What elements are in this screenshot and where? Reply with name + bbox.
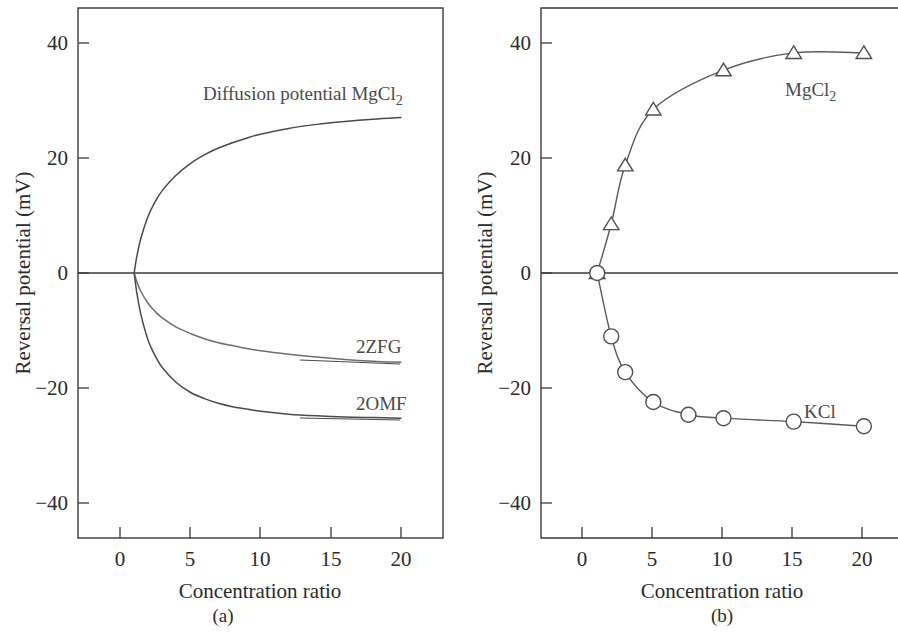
data-point-circle bbox=[681, 407, 696, 422]
x-tick-label-10-b: 10 bbox=[712, 547, 733, 571]
y-tick-label-m20-b: −20 bbox=[498, 376, 531, 400]
x-tick-label-20-b: 20 bbox=[852, 547, 873, 571]
y-tick-label-40-a: 40 bbox=[47, 31, 68, 55]
x-tick-label-20-a: 20 bbox=[391, 547, 412, 571]
x-tick-label-0-a: 0 bbox=[115, 547, 126, 571]
x-tick-label-15-b: 15 bbox=[782, 547, 803, 571]
data-point-circle bbox=[646, 395, 661, 410]
y-tick-label-m40-b: −40 bbox=[498, 491, 531, 515]
panel-b: 40 20 0 −20 −40 0 5 10 15 20 Concentrati… bbox=[440, 0, 898, 634]
x-tick-label-5-a: 5 bbox=[185, 547, 196, 571]
x-axis-title-b: Concentration ratio bbox=[641, 579, 804, 603]
y-tick-label-0-a: 0 bbox=[58, 261, 69, 285]
data-point-circle bbox=[786, 414, 801, 429]
label-mgcl2: MgCl2 bbox=[785, 79, 836, 104]
y-tick-label-20-a: 20 bbox=[47, 146, 68, 170]
panel-caption-a: (a) bbox=[212, 605, 233, 627]
x-axis-ticks-a bbox=[120, 527, 401, 538]
label-diffusion-text: Diffusion potential MgCl bbox=[203, 83, 396, 104]
data-point-circle bbox=[604, 329, 619, 344]
data-point-triangle bbox=[618, 158, 634, 171]
data-point-triangle bbox=[716, 63, 731, 76]
x-tick-label-10-a: 10 bbox=[250, 547, 271, 571]
label-diffusion-potential: Diffusion potential MgCl2 bbox=[203, 83, 403, 108]
x-axis-title-a: Concentration ratio bbox=[179, 579, 342, 603]
label-2omf: 2OMF bbox=[356, 393, 407, 414]
label-mgcl2-subscript: 2 bbox=[829, 89, 836, 104]
panel-caption-b: (b) bbox=[711, 605, 733, 627]
data-point-circle bbox=[618, 365, 633, 380]
y-axis-ticks-a bbox=[78, 43, 89, 503]
data-point-triangle bbox=[604, 217, 619, 230]
y-axis-ticks-b bbox=[541, 43, 552, 503]
x-tick-label-15-a: 15 bbox=[321, 547, 342, 571]
y-tick-label-0-b: 0 bbox=[521, 261, 532, 285]
curve-diffusion-potential-mgcl2 bbox=[134, 117, 401, 273]
y-tick-label-m20-a: −20 bbox=[35, 376, 68, 400]
y-tick-label-40-b: 40 bbox=[510, 31, 531, 55]
y-tick-label-m40-a: −40 bbox=[35, 491, 68, 515]
figure-reversal-potential: 40 20 0 −20 −40 0 5 10 15 20 Concentrati… bbox=[0, 0, 898, 634]
x-tick-label-5-b: 5 bbox=[647, 547, 658, 571]
y-tick-label-20-b: 20 bbox=[510, 146, 531, 170]
data-point-circle bbox=[856, 419, 871, 434]
label-kcl: KCl bbox=[804, 401, 836, 422]
y-axis-title-b: Reversal potential (mV) bbox=[473, 172, 497, 375]
label-mgcl2-text: MgCl bbox=[785, 79, 829, 100]
panel-a: 40 20 0 −20 −40 0 5 10 15 20 Concentrati… bbox=[0, 0, 460, 634]
x-axis-ticks-b bbox=[582, 527, 862, 538]
y-axis-title-a: Reversal potential (mV) bbox=[11, 172, 35, 375]
panel-b-plot: 40 20 0 −20 −40 0 5 10 15 20 Concentrati… bbox=[440, 0, 898, 634]
x-tick-label-0-b: 0 bbox=[577, 547, 588, 571]
panel-a-plot: 40 20 0 −20 −40 0 5 10 15 20 Concentrati… bbox=[0, 0, 460, 634]
label-diffusion-subscript: 2 bbox=[396, 93, 403, 108]
data-point-circle bbox=[590, 266, 605, 281]
data-point-circle bbox=[716, 411, 731, 426]
label-2zfg: 2ZFG bbox=[356, 336, 402, 357]
